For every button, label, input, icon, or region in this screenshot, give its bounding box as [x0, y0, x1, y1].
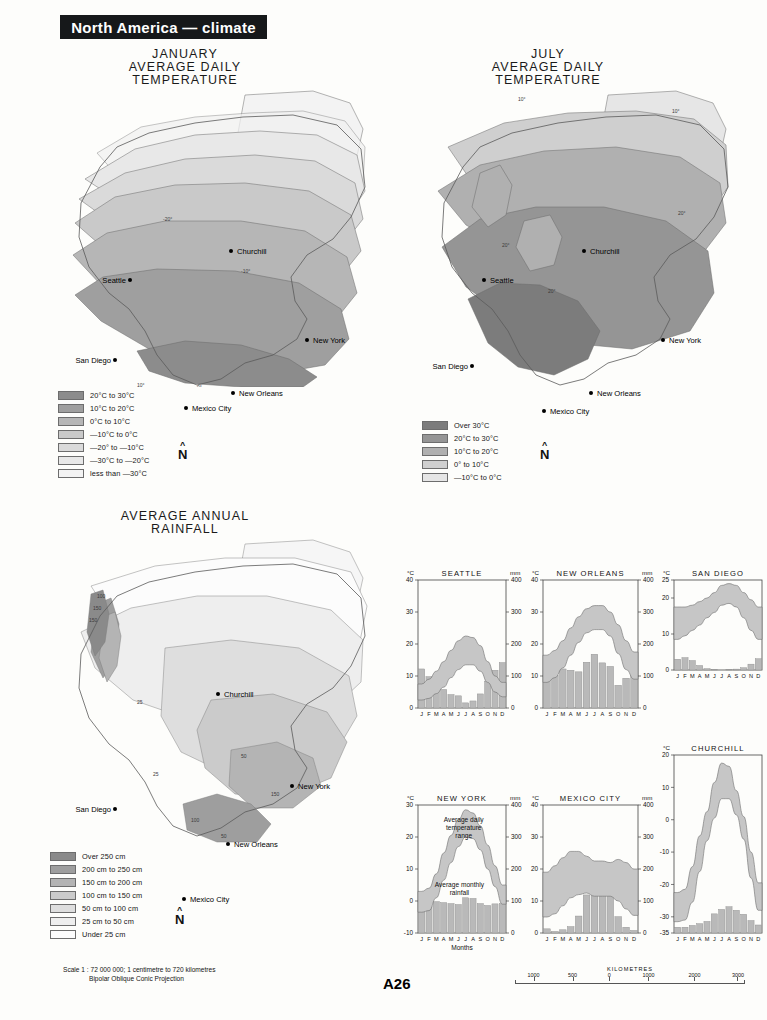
x-axis-label: Months — [451, 944, 473, 951]
km-scale-line — [515, 980, 745, 984]
graph-svg-churchill: CHURCHILL°C-35-30-20-1001020JFMAMJJASOND — [648, 741, 767, 949]
legend-label: 0°C to 10°C — [90, 417, 130, 426]
month-tick-label: J — [420, 936, 423, 942]
rainfall-bar — [477, 904, 483, 933]
rainfall-bar — [492, 904, 498, 933]
legend-item: Under 25 cm — [50, 929, 142, 941]
month-tick-label: D — [756, 936, 760, 942]
rainfall-bar — [575, 672, 582, 708]
month-tick-label: N — [493, 711, 497, 717]
y2-tick-label: 0 — [643, 704, 647, 711]
city-label-san-diego: San Diego — [76, 805, 111, 814]
rainfall-bar — [463, 898, 469, 933]
y-tick-label: 0 — [534, 704, 538, 711]
legend-label: 100 cm to 150 cm — [82, 891, 142, 900]
legend-item: 100 cm to 150 cm — [50, 890, 142, 902]
rainfall-bar — [675, 659, 681, 670]
legend-swatch — [58, 443, 84, 452]
month-tick-label: M — [705, 673, 710, 679]
rainfall-bar — [448, 695, 454, 708]
map-january-extra-cities: Mexico City — [45, 48, 385, 448]
month-tick-label: M — [434, 936, 439, 942]
y-tick-label: 25 — [662, 576, 670, 583]
rainfall-bar — [599, 663, 606, 708]
city-label-new-york: New York — [298, 782, 330, 791]
legend-label: 25 cm to 50 cm — [82, 917, 134, 926]
rainfall-bar — [711, 914, 717, 933]
axis-unit-celsius: °C — [532, 569, 539, 576]
legend-item: 150 cm to 200 cm — [50, 877, 142, 889]
legend-item: —30°C to —20°C — [58, 455, 149, 467]
rainfall-bar — [755, 659, 761, 670]
rainfall-bar — [583, 662, 590, 708]
y-tick-label: 10 — [406, 865, 414, 872]
month-tick-label: D — [500, 936, 504, 942]
legend-swatch — [50, 852, 76, 861]
city-label-mexico-city: Mexico City — [190, 895, 229, 904]
legend-swatch — [422, 447, 448, 456]
rainfall-bar — [591, 654, 598, 708]
annotation-temperature-range: Average daily — [444, 816, 485, 824]
rainfall-bar — [733, 910, 739, 933]
city-label-new-orleans: New Orleans — [234, 840, 278, 849]
climate-graph-new-york: NEW YORK°C-100102030mm0100200300400JFMAM… — [392, 791, 532, 949]
month-tick-label: J — [457, 711, 460, 717]
y-tick-label: 0 — [665, 666, 669, 673]
rainfall-bar — [697, 924, 703, 933]
month-tick-label: A — [442, 711, 446, 717]
rainfall-bar — [477, 694, 483, 708]
legend-rainfall: Over 250 cm 200 cm to 250 cm 150 cm to 2… — [50, 851, 142, 942]
page-title: North America — climate — [60, 15, 267, 39]
month-tick-label: M — [449, 711, 454, 717]
y2-tick-label: 0 — [643, 929, 647, 936]
month-tick-label: O — [616, 711, 621, 717]
y-tick-label: 0 — [409, 704, 413, 711]
month-tick-label: O — [741, 936, 746, 942]
legend-item: 25 cm to 50 cm — [50, 916, 142, 928]
month-tick-label: O — [485, 711, 490, 717]
graph-title: NEW YORK — [437, 794, 487, 803]
legend-item: —10°C to 0°C — [422, 472, 502, 484]
month-tick-label: J — [713, 936, 716, 942]
y2-tick-label: 0 — [511, 929, 515, 936]
y-tick-label: -20 — [660, 881, 670, 888]
rainfall-bar — [623, 927, 630, 933]
month-tick-label: D — [632, 936, 636, 942]
month-tick-label: J — [720, 673, 723, 679]
month-tick-label: F — [427, 711, 431, 717]
rainfall-bar — [748, 664, 754, 670]
legend-item: 50 cm to 100 cm — [50, 903, 142, 915]
month-tick-label: J — [676, 936, 679, 942]
month-tick-label: A — [727, 673, 731, 679]
climate-graph-new-orleans: NEW ORLEANS°C010203040mm0100200300400JFM… — [517, 566, 664, 724]
legend-label: 150 cm to 200 cm — [82, 878, 142, 887]
y-tick-label: -10 — [404, 929, 414, 936]
graph-title: SAN DIEGO — [692, 569, 744, 578]
legend-july: Over 30°C 20°C to 30°C 10°C to 20°C 0° t… — [422, 420, 502, 485]
page-number: A26 — [383, 975, 411, 992]
legend-item: 10°C to 20°C — [58, 403, 149, 415]
rainfall-bar — [623, 678, 630, 708]
km-scale-ticks: 1000 500 0 1000 2000 3000 — [515, 972, 745, 980]
y-tick-label: 10 — [531, 672, 539, 679]
graph-title: NEW ORLEANS — [556, 569, 624, 578]
km-tick: 3000 — [732, 972, 744, 978]
rainfall-bar — [607, 891, 614, 933]
legend-label: 10°C to 20°C — [454, 447, 499, 456]
month-tick-label: A — [569, 936, 573, 942]
month-tick-label: O — [485, 936, 490, 942]
y-tick-label: 30 — [406, 801, 414, 808]
legend-swatch — [58, 430, 84, 439]
graph-title: SEATTLE — [442, 569, 483, 578]
y-tick-label: 0 — [534, 929, 538, 936]
scale-line-1: Scale 1 : 72 000 000; 1 centimetre to 72… — [63, 965, 215, 974]
legend-swatch — [50, 891, 76, 900]
graph-svg-mexico-city: MEXICO CITY°C010203040mm0100200300400JFM… — [517, 791, 664, 949]
north-arrow-label: N — [540, 447, 549, 462]
axis-unit-celsius: °C — [663, 744, 670, 751]
scale-note: Scale 1 : 72 000 000; 1 centimetre to 72… — [63, 965, 215, 983]
legend-label: 10°C to 20°C — [90, 404, 135, 413]
rainfall-bar — [433, 902, 439, 933]
rainfall-bar — [682, 658, 688, 670]
month-tick-label: A — [727, 936, 731, 942]
